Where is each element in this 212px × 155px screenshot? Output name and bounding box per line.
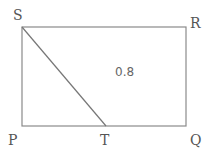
- label-s: S: [13, 7, 23, 23]
- region-value: 0.8: [115, 65, 134, 79]
- label-t: T: [100, 132, 110, 148]
- label-r: R: [190, 15, 201, 31]
- segment-st: [22, 27, 106, 126]
- label-p: P: [8, 132, 17, 148]
- rectangle-pqrs: [22, 27, 186, 126]
- label-q: Q: [190, 132, 201, 148]
- geometry-diagram: S R P T Q 0.8: [0, 0, 212, 155]
